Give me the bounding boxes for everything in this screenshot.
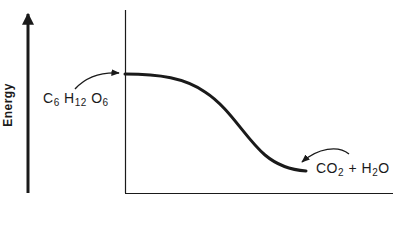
reactant-symbol: C <box>43 90 54 106</box>
energy-axis-label: Energy <box>1 83 15 127</box>
product-label: CO2 + H2O <box>316 160 390 178</box>
reactant-subscript: 6 <box>103 97 109 108</box>
reactant-label: C6 H12 O6 <box>43 90 109 108</box>
reactant-subscript: 12 <box>75 97 87 108</box>
reactant-pointer-arrow <box>75 73 119 89</box>
reactant-symbol: O <box>87 90 103 106</box>
product-symbol: O <box>378 160 389 176</box>
product-symbol: + H <box>344 160 372 176</box>
energy-curve <box>125 74 306 171</box>
reactant-symbol: H <box>60 90 75 106</box>
product-symbol: CO <box>316 160 338 176</box>
